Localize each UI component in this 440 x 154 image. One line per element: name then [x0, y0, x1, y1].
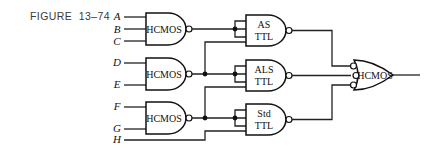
input-label-b: B: [114, 23, 121, 35]
gate-label: HCMOS: [357, 70, 393, 81]
hcmos-nand-gate-1: HCMOS: [146, 13, 192, 45]
gate-label-line2: TTL: [255, 120, 273, 131]
gate-label: HCMOS: [146, 69, 182, 80]
std-ttl-nand-gate: Std TTL: [246, 104, 292, 135]
input-label-f: F: [113, 100, 121, 112]
logic-circuit-diagram: A B C D E F G H HCMOS HCMOS HCMOS: [0, 0, 440, 154]
input-label-a: A: [113, 10, 121, 22]
hcmos-or-gate-output: HCMOS: [351, 60, 394, 90]
gate-label: HCMOS: [146, 24, 182, 35]
interconnect-wires: [192, 21, 246, 126]
gate-label-line1: ALS: [255, 64, 274, 75]
gate-label: HCMOS: [146, 113, 182, 124]
hcmos-nand-gate-3: HCMOS: [146, 102, 192, 134]
gate-label-line2: TTL: [255, 31, 273, 42]
gate-label-line1: Std: [257, 108, 270, 119]
input-label-e: E: [113, 78, 121, 90]
als-ttl-nand-gate: ALS TTL: [246, 60, 292, 91]
hcmos-nand-gate-2: HCMOS: [146, 58, 192, 90]
input-label-c: C: [113, 35, 121, 47]
input-label-d: D: [112, 56, 121, 68]
as-ttl-nand-gate: AS TTL: [246, 15, 292, 46]
gate-label-line1: AS: [258, 19, 271, 30]
gate-label-line2: TTL: [255, 76, 273, 87]
input-label-h: H: [112, 133, 122, 145]
